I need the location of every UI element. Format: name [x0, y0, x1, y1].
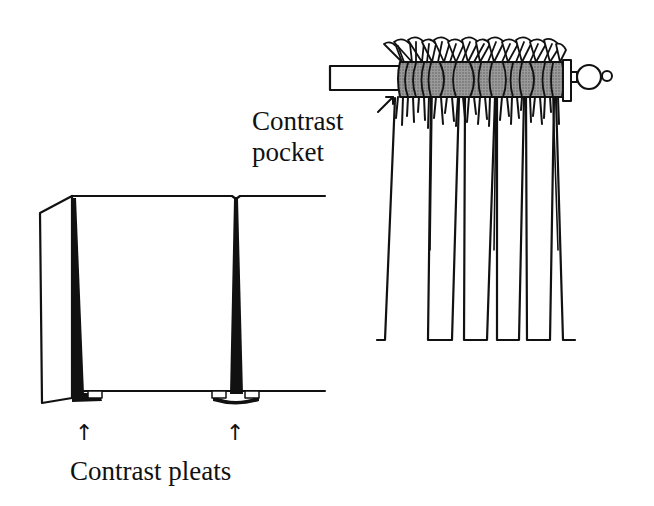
valance-top-edge — [72, 196, 325, 199]
box-pleated-valance-figure — [40, 196, 325, 405]
contrast-pocket-label-line2: pocket — [252, 137, 344, 168]
curtain-panels — [377, 98, 575, 340]
gathered-header-ruffle — [384, 37, 566, 62]
finial-tip — [602, 71, 612, 81]
rod-bracket — [563, 60, 571, 101]
finial-ball — [577, 65, 601, 89]
contrast-pocket-label-line1: Contrast — [252, 106, 344, 137]
contrast-pocket — [398, 62, 564, 97]
curtain-diagram — [0, 0, 654, 506]
gathered-strands — [396, 97, 559, 128]
curtain-rod — [330, 66, 402, 90]
pocket-pointer-arrow — [378, 97, 393, 112]
rod-pocket-curtain-figure — [330, 37, 612, 340]
inverted-pleat-2 — [212, 199, 259, 405]
arrow-up-icon: ↑ — [226, 422, 244, 444]
valance-return — [40, 196, 72, 403]
contrast-pocket-label: Contrast pocket — [252, 106, 344, 168]
inverted-pleat-1 — [72, 198, 102, 402]
contrast-pleats-label: Contrast pleats — [70, 458, 231, 485]
arrow-up-icon: ↑ — [75, 422, 93, 444]
